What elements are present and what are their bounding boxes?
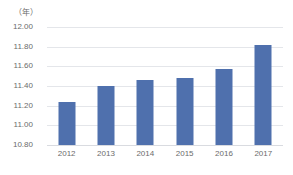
x-axis-tick-label: 2017 — [244, 149, 283, 158]
bar[interactable] — [215, 69, 232, 145]
bar-slot — [165, 27, 204, 145]
y-axis-tick-label: 10.80 — [0, 140, 33, 149]
bar[interactable] — [97, 86, 114, 145]
y-axis-tick-label: 11.80 — [0, 42, 33, 51]
bar-slot — [244, 27, 283, 145]
x-axis-tick-label: 2013 — [86, 149, 125, 158]
bar-slot — [204, 27, 243, 145]
bar-slot — [47, 27, 86, 145]
x-axis-tick-labels: （年） 201220132014201520162017 — [47, 149, 283, 165]
y-axis-tick-label: 12.00 — [0, 22, 33, 31]
x-axis-tick-label: 2016 — [204, 149, 243, 158]
bar[interactable] — [255, 45, 272, 145]
bar-chart: （年） 12.0011.8011.6011.4011.2011.0010.80 … — [0, 0, 293, 175]
plot-area: 12.0011.8011.6011.4011.2011.0010.80 — [47, 27, 283, 145]
x-axis-tick-label: 2014 — [126, 149, 165, 158]
bar[interactable] — [176, 78, 193, 145]
bar[interactable] — [137, 80, 154, 145]
y-axis-tick-label: 11.60 — [0, 61, 33, 70]
bar[interactable] — [58, 102, 75, 145]
bar-slot — [126, 27, 165, 145]
bar-slot — [86, 27, 125, 145]
y-axis-tick-label: 11.20 — [0, 101, 33, 110]
y-axis-unit-label: （年） — [14, 6, 38, 17]
x-axis-tick-label: 2015 — [165, 149, 204, 158]
y-axis-tick-label: 11.00 — [0, 120, 33, 129]
y-axis-tick-label: 11.40 — [0, 81, 33, 90]
gridline — [47, 145, 283, 146]
bar-series — [47, 27, 283, 145]
x-axis-tick-label: 2012 — [47, 149, 86, 158]
